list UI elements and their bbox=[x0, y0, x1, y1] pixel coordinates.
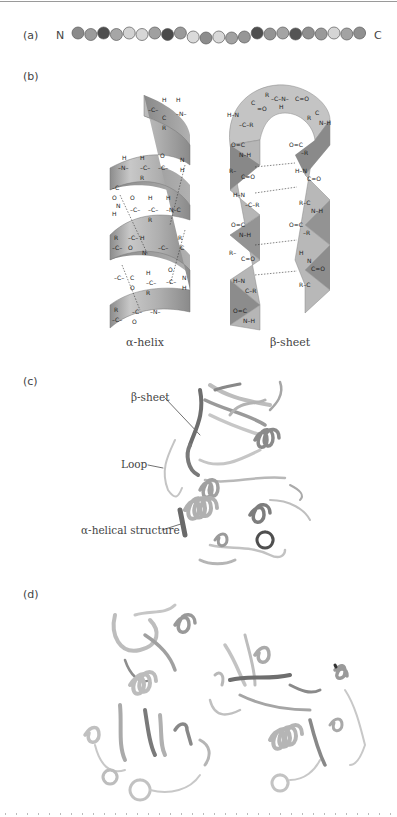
svg-text:R: R bbox=[162, 124, 166, 131]
svg-text:N–H: N–H bbox=[239, 231, 251, 238]
quaternary-structure-ribbon bbox=[0, 595, 397, 805]
amino-acid-residue bbox=[341, 28, 353, 40]
amino-acid-residue bbox=[226, 32, 238, 44]
amino-acid-residue bbox=[302, 27, 314, 39]
svg-text:–N–: –N– bbox=[150, 308, 161, 315]
svg-text:–N–C: –N–C bbox=[166, 206, 181, 213]
amino-acid-residue bbox=[174, 27, 186, 39]
svg-text:–C–: –C– bbox=[130, 206, 140, 213]
svg-text:C: C bbox=[162, 114, 166, 121]
svg-text:H: H bbox=[166, 194, 171, 201]
svg-text:–C–: –C– bbox=[166, 278, 176, 285]
svg-text:N: N bbox=[180, 156, 185, 163]
svg-text:H: H bbox=[112, 210, 117, 217]
svg-text:O=C: O=C bbox=[231, 141, 245, 148]
amino-acid-residue bbox=[213, 31, 225, 43]
beta-sheet-caption: β-sheet bbox=[270, 336, 310, 349]
amino-acid-residue bbox=[200, 32, 212, 44]
svg-text:–C–: –C– bbox=[114, 274, 124, 281]
amino-acid-residue bbox=[238, 31, 250, 43]
svg-text:N: N bbox=[307, 257, 312, 264]
svg-text:H: H bbox=[122, 154, 127, 161]
amino-acid-residue bbox=[98, 27, 110, 39]
svg-text:C: C bbox=[180, 244, 184, 251]
svg-text:O: O bbox=[132, 318, 137, 325]
amino-acid-residue bbox=[315, 28, 327, 40]
svg-text:N: N bbox=[142, 249, 147, 256]
amino-acid-residue bbox=[290, 28, 302, 40]
svg-text:C: C bbox=[130, 274, 134, 281]
svg-text:–R: –R bbox=[303, 229, 310, 236]
amino-acid-residue bbox=[328, 27, 340, 39]
bottom-text-remnant bbox=[0, 813, 397, 815]
svg-text:H: H bbox=[140, 154, 145, 161]
svg-text:R–C: R–C bbox=[299, 199, 310, 206]
svg-text:N–H: N–H bbox=[239, 151, 251, 158]
svg-text:H–N: H–N bbox=[233, 191, 245, 198]
svg-text:N: N bbox=[116, 202, 121, 209]
amino-acid-residue bbox=[251, 27, 263, 39]
svg-text:H: H bbox=[162, 96, 167, 103]
svg-text:–C–R: –C–R bbox=[245, 201, 259, 208]
svg-text:H: H bbox=[148, 194, 153, 201]
svg-text:–C–R: –C–R bbox=[239, 121, 253, 128]
c-terminus-label: C bbox=[374, 29, 382, 42]
svg-text:O: O bbox=[160, 152, 165, 159]
svg-text:O=C: O=C bbox=[231, 221, 245, 228]
svg-text:O=C: O=C bbox=[289, 141, 303, 148]
svg-text:C=O: C=O bbox=[307, 175, 321, 182]
svg-text:O: O bbox=[168, 266, 173, 273]
svg-text:C=O: C=O bbox=[241, 173, 255, 180]
svg-text:H: H bbox=[176, 96, 181, 103]
svg-text:O=C: O=C bbox=[289, 221, 303, 228]
svg-text:O: O bbox=[128, 244, 133, 251]
svg-text:–C–: –C– bbox=[112, 244, 122, 251]
svg-text:R: R bbox=[114, 234, 118, 241]
svg-text:–C–N–: –C–N– bbox=[271, 95, 289, 102]
svg-text:N–H: N–H bbox=[311, 207, 323, 214]
svg-text:H: H bbox=[279, 103, 284, 110]
svg-text:C=O: C=O bbox=[241, 255, 255, 262]
amino-acid-residue bbox=[85, 29, 97, 41]
svg-text:R–: R– bbox=[229, 167, 236, 174]
svg-text:R: R bbox=[140, 174, 144, 181]
svg-text:R: R bbox=[114, 306, 118, 313]
svg-text:H–N: H–N bbox=[227, 111, 239, 118]
svg-text:R: R bbox=[178, 234, 182, 241]
svg-text:–C–: –C– bbox=[148, 106, 158, 113]
svg-text:R: R bbox=[148, 216, 152, 223]
amino-acid-residue bbox=[187, 31, 199, 43]
svg-text:O: O bbox=[130, 194, 135, 201]
svg-text:–C–: –C– bbox=[132, 308, 142, 315]
svg-text:H: H bbox=[180, 166, 185, 173]
svg-text:R–: R– bbox=[229, 249, 236, 256]
amino-acid-residue bbox=[72, 27, 84, 39]
alpha-helix-diagram: –C–HCRH–N– H–N–H–C–RO–C–NH –CONH O–C–H–C… bbox=[100, 90, 210, 330]
svg-text:C: C bbox=[315, 109, 319, 116]
svg-text:O: O bbox=[112, 194, 117, 201]
tertiary-structure-ribbon bbox=[0, 360, 397, 580]
svg-text:–C–: –C– bbox=[158, 244, 168, 251]
svg-text:H: H bbox=[146, 269, 151, 276]
amino-acid-residue bbox=[110, 29, 122, 41]
amino-acid-residue bbox=[149, 27, 161, 39]
amino-acid-chain bbox=[0, 0, 397, 60]
amino-acid-residue bbox=[354, 27, 366, 39]
svg-text:R: R bbox=[265, 91, 269, 98]
svg-text:C=O: C=O bbox=[295, 95, 309, 102]
amino-acid-residue bbox=[277, 27, 289, 39]
svg-text:–C–: –C– bbox=[148, 206, 158, 213]
subunit-2 bbox=[210, 635, 365, 791]
svg-text:O: O bbox=[130, 284, 135, 291]
beta-sheet-diagram: R–C–N–C=OC=OH H–N–C–RRCN–H O=CN–HO=C–R R… bbox=[215, 85, 335, 330]
svg-text:C=O: C=O bbox=[311, 265, 325, 272]
svg-text:–N–: –N– bbox=[118, 164, 129, 171]
svg-text:H: H bbox=[299, 249, 304, 256]
svg-text:R–C: R–C bbox=[299, 281, 310, 288]
svg-text:–C–: –C– bbox=[158, 164, 168, 171]
svg-text:–N–: –N– bbox=[176, 110, 187, 117]
svg-text:C: C bbox=[251, 99, 255, 106]
svg-text:R: R bbox=[146, 289, 150, 296]
svg-text:C–R: C–R bbox=[245, 287, 256, 294]
svg-text:–C–: –C– bbox=[112, 316, 122, 323]
